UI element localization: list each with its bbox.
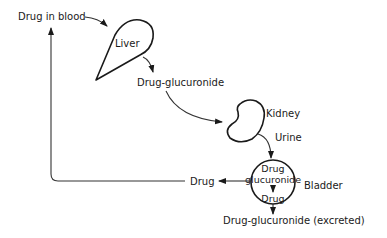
liver-shape [96,20,153,80]
label-drug-glucuronide: Drug-glucuronide [137,77,224,88]
kidney-shape [227,100,264,142]
drug-metabolism-diagram: Drug in blood Liver Drug-glucuronide Kid… [0,0,387,238]
arrow-blood-to-liver [85,17,107,26]
arrow-drug-to-blood [51,28,185,181]
label-kidney: Kidney [266,108,300,119]
label-bladder: Bladder [304,180,344,191]
bladder-inner-glucuronide-line2: glucuronide [245,174,301,185]
label-drug-in-blood: Drug in blood [18,11,86,22]
arrow-glucuronide-to-kidney [166,91,222,122]
arrow-kidney-to-bladder [258,134,271,158]
label-drug-reabsorbed: Drug [190,176,215,187]
label-urine: Urine [275,132,302,143]
label-liver: Liver [115,38,140,49]
label-excreted: Drug-glucuronide (excreted) [223,215,365,226]
arrow-liver-to-glucuronide [143,57,153,72]
bladder-inner-drug: Drug [261,193,284,204]
bladder-inner-drug-line1: Drug [261,163,284,174]
